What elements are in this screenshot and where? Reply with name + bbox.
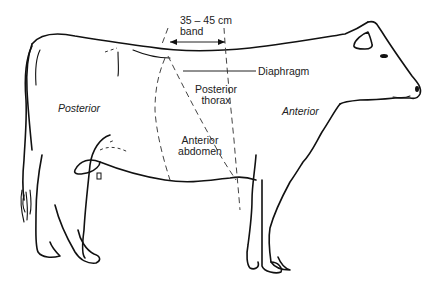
cow-hind-leg-near xyxy=(55,205,100,263)
boundary-anterior-abdomen xyxy=(155,58,170,180)
band-arrow-left xyxy=(170,39,177,45)
cow-mouth xyxy=(393,96,410,98)
cow-rib-line xyxy=(133,50,170,58)
cow-tail-switch xyxy=(21,190,31,222)
cow-neck-chest xyxy=(269,104,340,270)
boundary-diaphragm xyxy=(168,56,236,180)
posterior-region-label: Posterior xyxy=(58,103,100,114)
cow-teat xyxy=(97,173,101,179)
posterior-thorax-line2: thorax xyxy=(190,95,242,106)
anterior-abdomen-label: Anterior abdomen xyxy=(174,135,226,157)
boundary-band-rear xyxy=(162,28,168,44)
boundary-band-front xyxy=(224,28,240,210)
cow-hind-thigh xyxy=(83,135,110,258)
posterior-thorax-label: Posterior thorax xyxy=(190,84,242,106)
cow-ear xyxy=(354,32,372,49)
cow-flank-dash xyxy=(105,48,117,52)
cow-eye xyxy=(380,54,388,58)
cow-head-outline xyxy=(340,22,421,104)
diaphragm-label: Diaphragm xyxy=(258,66,309,77)
cow-hind-leg-far xyxy=(36,155,60,257)
cow-front-leg-far xyxy=(247,155,258,269)
cow-udder-vein xyxy=(100,140,128,152)
band-arrow-right xyxy=(218,39,225,45)
anterior-region-label: Anterior xyxy=(282,106,319,117)
band-word-label: band xyxy=(180,26,203,37)
cow-udder xyxy=(75,160,100,174)
cow-belly-outline xyxy=(100,162,256,182)
cow-nostril xyxy=(415,86,419,92)
cow-tail-inner xyxy=(36,50,40,85)
anterior-abdomen-line2: abdomen xyxy=(174,146,226,157)
